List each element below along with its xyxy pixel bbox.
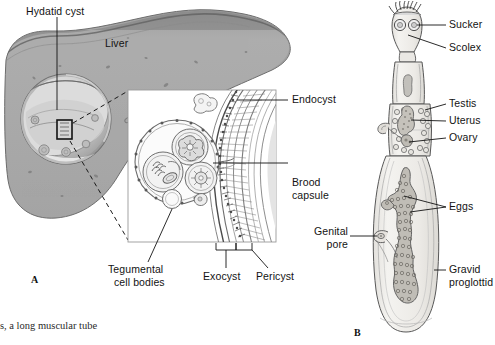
label-ovary: Ovary xyxy=(449,132,478,144)
label-liver: Liver xyxy=(105,38,128,50)
caption-fragment: s, a long muscular tube xyxy=(0,320,97,331)
figure-artwork xyxy=(0,0,495,345)
label-sucker: Sucker xyxy=(449,19,482,31)
label-gravid-line2: proglottid xyxy=(449,277,493,289)
immature-proglottid xyxy=(393,62,425,104)
label-eggs: Eggs xyxy=(449,201,473,213)
label-testis: Testis xyxy=(449,98,476,110)
tapeworm-illustration xyxy=(373,1,439,332)
label-gravid-line1: Gravid xyxy=(449,264,481,276)
ovary xyxy=(401,135,412,147)
label-genital-pore-line2: pore xyxy=(306,239,348,251)
label-uterus: Uterus xyxy=(449,115,481,127)
inset-source-box xyxy=(57,120,72,139)
label-pericyst: Pericyst xyxy=(256,271,294,283)
label-endocyst: Endocyst xyxy=(292,94,336,106)
panel-letter-a: A xyxy=(31,274,38,285)
label-scolex: Scolex xyxy=(449,42,481,54)
label-brood-capsule-line2: capsule xyxy=(292,190,329,202)
protoscolex-evaginated xyxy=(143,152,183,192)
panel-letter-b: B xyxy=(354,327,361,338)
label-tegumental-line2: cell bodies xyxy=(114,277,165,289)
figure-root: Hydatid cyst Liver Endocyst Brood capsul… xyxy=(0,0,495,345)
label-tegumental-line1: Tegumental xyxy=(108,264,163,276)
calcareous-corpuscle xyxy=(194,194,207,206)
label-exocyst: Exocyst xyxy=(203,271,240,283)
mature-proglottid xyxy=(378,104,432,156)
label-brood-capsule-line1: Brood xyxy=(292,177,321,189)
label-genital-pore-line1: Genital xyxy=(306,226,348,238)
protoscolex-right xyxy=(185,162,217,194)
label-hydatid-cyst: Hydatid cyst xyxy=(26,6,84,18)
cyst-wall-inset xyxy=(128,86,300,244)
scolex xyxy=(389,1,422,62)
gravid-proglottid xyxy=(373,156,439,332)
tegumental-cell-body xyxy=(163,190,182,209)
